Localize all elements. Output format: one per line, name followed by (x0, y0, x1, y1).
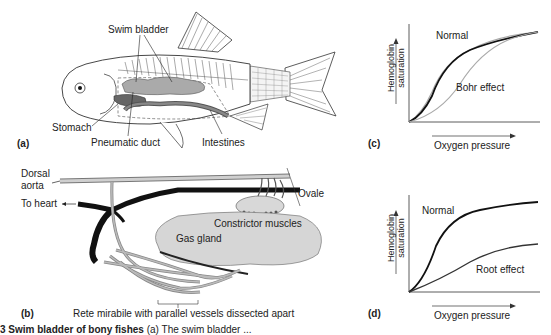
d-series-root-label: Root effect (476, 264, 524, 275)
d-ylabel: Hemoglobin saturation (386, 208, 406, 268)
label-intestines: Intestines (202, 137, 245, 148)
figure-caption: 3 Swim bladder of bony fishes (a) The sw… (0, 324, 252, 335)
label-dorsal-aorta-1: Dorsal (21, 168, 50, 179)
caption-title: 3 Swim bladder of bony fishes (0, 324, 144, 335)
c-xlabel: Oxygen pressure (434, 140, 510, 151)
label-dorsal-aorta-2: aorta (21, 180, 44, 191)
label-constrictor-muscles: Constrictor muscles (214, 218, 302, 229)
label-gas-gland: Gas gland (176, 233, 222, 244)
label-ovale: Ovale (298, 188, 324, 199)
c-series-bohr-label: Bohr effect (456, 82, 504, 93)
label-pneumatic-duct: Pneumatic duct (91, 137, 160, 148)
panel-label-a: (a) (17, 138, 29, 149)
caption-body: (a) The swim bladder ... (144, 324, 252, 335)
label-stomach: Stomach (52, 122, 91, 133)
panel-label-d: (d) (368, 308, 381, 319)
label-rete-mirabile: Rete mirabile with parallel vessels diss… (73, 308, 294, 319)
label-swim-bladder: Swim bladder (108, 24, 169, 35)
c-ylabel: Hemoglobin saturation (386, 38, 406, 98)
d-series-normal-label: Normal (422, 205, 454, 216)
c-series-normal-label: Normal (436, 30, 468, 41)
d-ylabel-text: Hemoglobin saturation (386, 214, 406, 262)
panel-label-b: (b) (21, 308, 34, 319)
c-ylabel-text: Hemoglobin saturation (386, 44, 406, 92)
label-to-heart: To heart (21, 198, 57, 209)
panel-label-c: (c) (368, 138, 380, 149)
d-xlabel: Oxygen pressure (434, 310, 510, 321)
